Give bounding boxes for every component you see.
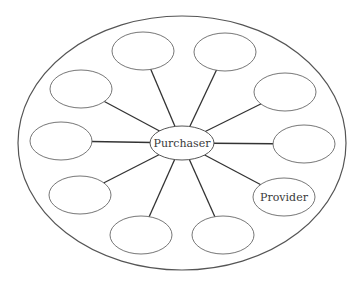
- satellite-node: [192, 216, 254, 254]
- diagram-canvas: Provider Purchaser: [0, 0, 361, 286]
- satellite-ellipse: [194, 33, 256, 71]
- satellite-ellipse: [254, 73, 316, 111]
- satellite-label: Provider: [260, 191, 309, 204]
- satellite-node: [254, 73, 316, 111]
- satellite-ellipse: [112, 32, 174, 70]
- satellite-node: [194, 33, 256, 71]
- satellite-node: [49, 176, 111, 214]
- satellite-node: [110, 216, 172, 254]
- satellite-node: [30, 122, 92, 160]
- satellite-ellipse: [30, 122, 92, 160]
- satellite-ellipse: [50, 70, 112, 108]
- satellite-ellipse: [192, 216, 254, 254]
- satellite-node: [112, 32, 174, 70]
- satellite-ellipse: [273, 125, 335, 163]
- hub-node: Purchaser: [150, 126, 214, 160]
- satellite-ellipse: [49, 176, 111, 214]
- satellite-node: [50, 70, 112, 108]
- satellite-ellipse: [110, 216, 172, 254]
- hub-label: Purchaser: [154, 137, 212, 150]
- satellite-node: [273, 125, 335, 163]
- hub-spoke-diagram: Provider Purchaser: [0, 0, 361, 286]
- satellite-node: Provider: [253, 178, 315, 216]
